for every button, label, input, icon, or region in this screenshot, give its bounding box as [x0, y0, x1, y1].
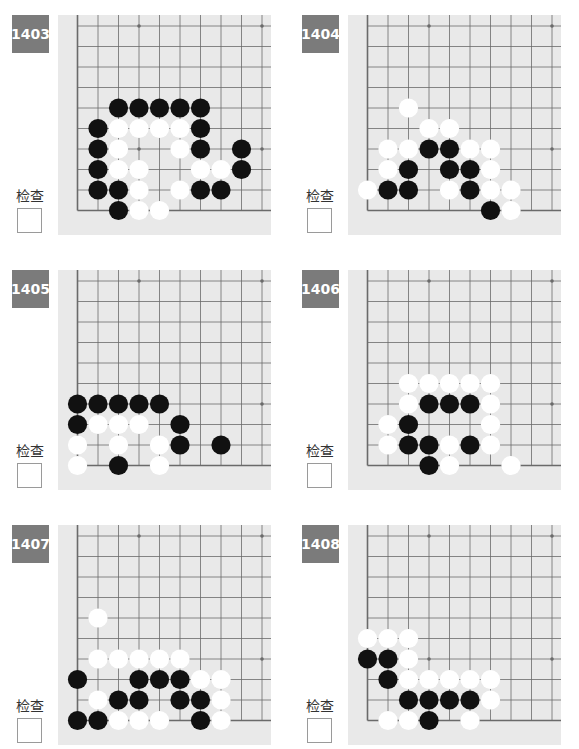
black-stone: [170, 435, 189, 454]
black-stone: [399, 180, 418, 199]
black-stone: [460, 690, 479, 709]
white-stone: [481, 435, 500, 454]
black-stone: [399, 435, 418, 454]
problem-number-badge: 1403: [12, 15, 49, 53]
black-stone: [68, 415, 87, 434]
black-stone: [68, 711, 87, 730]
white-stone: [378, 139, 397, 158]
star-point-icon: [260, 24, 264, 28]
white-stone: [481, 160, 500, 179]
star-point-icon: [137, 24, 141, 28]
go-board[interactable]: [348, 270, 561, 490]
board-grid: [348, 15, 561, 235]
black-stone: [378, 649, 397, 668]
go-board[interactable]: [348, 15, 561, 235]
white-stone: [129, 119, 148, 138]
black-stone: [191, 98, 210, 117]
problem-1405: 1405 检查: [12, 270, 282, 495]
black-stone: [129, 394, 148, 413]
white-stone: [481, 670, 500, 689]
go-board[interactable]: [58, 270, 271, 490]
black-stone: [129, 98, 148, 117]
problem-number-badge: 1405: [12, 270, 49, 308]
white-stone: [88, 690, 107, 709]
problem-1404: 1404 检查: [302, 15, 572, 240]
black-stone: [88, 139, 107, 158]
black-stone: [150, 98, 169, 117]
white-stone: [129, 201, 148, 220]
white-stone: [440, 435, 459, 454]
star-point-icon: [137, 279, 141, 283]
white-stone: [419, 374, 438, 393]
board-grid: [348, 270, 561, 490]
star-point-icon: [260, 279, 264, 283]
white-stone: [419, 119, 438, 138]
check-checkbox[interactable]: [17, 208, 42, 233]
go-board[interactable]: [348, 525, 561, 745]
black-stone: [129, 670, 148, 689]
black-stone: [440, 690, 459, 709]
black-stone: [460, 394, 479, 413]
problem-number-badge: 1404: [302, 15, 339, 53]
white-stone: [129, 180, 148, 199]
white-stone: [88, 649, 107, 668]
check-checkbox[interactable]: [307, 208, 332, 233]
star-point-icon: [550, 147, 554, 151]
white-stone: [129, 415, 148, 434]
black-stone: [170, 98, 189, 117]
white-stone: [211, 711, 230, 730]
white-stone: [481, 139, 500, 158]
black-stone: [170, 690, 189, 709]
white-stone: [399, 394, 418, 413]
star-point-icon: [260, 402, 264, 406]
white-stone: [399, 670, 418, 689]
white-stone: [170, 119, 189, 138]
check-checkbox[interactable]: [17, 463, 42, 488]
problem-1408: 1408 检查: [302, 525, 572, 749]
check-label: 检查: [16, 185, 44, 205]
black-stone: [88, 180, 107, 199]
check-checkbox[interactable]: [307, 463, 332, 488]
problem-1407: 1407 检查: [12, 525, 282, 749]
black-stone: [378, 670, 397, 689]
problem-number-badge: 1407: [12, 525, 49, 563]
black-stone: [88, 119, 107, 138]
board-grid: [58, 15, 271, 235]
white-stone: [481, 690, 500, 709]
problem-number-badge: 1406: [302, 270, 339, 308]
check-label: 检查: [16, 695, 44, 715]
white-stone: [211, 690, 230, 709]
star-point-icon: [427, 657, 431, 661]
white-stone: [440, 456, 459, 475]
white-stone: [481, 415, 500, 434]
white-stone: [399, 374, 418, 393]
black-stone: [378, 180, 397, 199]
check-checkbox[interactable]: [307, 718, 332, 743]
black-stone: [481, 201, 500, 220]
check-checkbox[interactable]: [17, 718, 42, 743]
go-board[interactable]: [58, 15, 271, 235]
white-stone: [378, 711, 397, 730]
black-stone: [419, 711, 438, 730]
white-stone: [109, 160, 128, 179]
black-stone: [191, 119, 210, 138]
go-board[interactable]: [58, 525, 271, 745]
black-stone: [88, 394, 107, 413]
star-point-icon: [550, 279, 554, 283]
white-stone: [501, 180, 520, 199]
board-grid: [58, 270, 271, 490]
black-stone: [109, 690, 128, 709]
white-stone: [109, 435, 128, 454]
black-stone: [399, 415, 418, 434]
white-stone: [378, 435, 397, 454]
white-stone: [440, 374, 459, 393]
white-stone: [129, 649, 148, 668]
white-stone: [358, 629, 377, 648]
white-stone: [88, 415, 107, 434]
board-grid: [58, 525, 271, 745]
black-stone: [88, 711, 107, 730]
white-stone: [109, 415, 128, 434]
white-stone: [440, 180, 459, 199]
white-stone: [211, 670, 230, 689]
white-stone: [191, 670, 210, 689]
